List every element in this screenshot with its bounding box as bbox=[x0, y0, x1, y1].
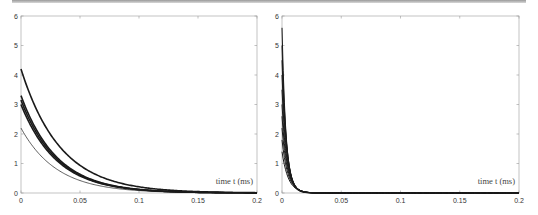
axes-box bbox=[21, 16, 257, 193]
y-tick-label: 3 bbox=[275, 101, 279, 108]
x-tick-label: 0.2 bbox=[514, 197, 524, 204]
y-tick-label: 4 bbox=[275, 72, 279, 79]
x-tick-label: 0.1 bbox=[134, 197, 144, 204]
x-tick-label: 0.05 bbox=[334, 197, 348, 204]
y-tick-label: 5 bbox=[275, 42, 279, 49]
x-tick-label: 0.05 bbox=[73, 197, 87, 204]
x-axis-label: time t (ms) bbox=[478, 176, 515, 186]
x-tick-label: 0 bbox=[280, 197, 284, 204]
y-tick-label: 0 bbox=[275, 190, 279, 197]
y-tick-label: 6 bbox=[275, 13, 279, 20]
y-tick-label: 2 bbox=[14, 131, 18, 138]
x-tick-label: 0.1 bbox=[396, 197, 406, 204]
y-tick-label: 1 bbox=[14, 160, 18, 167]
chart-right: 00.050.10.150.20123456time t (ms) bbox=[261, 0, 538, 215]
axes-box bbox=[282, 16, 519, 193]
x-tick-label: 0.15 bbox=[191, 197, 205, 204]
y-tick-label: 1 bbox=[275, 160, 279, 167]
x-tick-label: 0.15 bbox=[453, 197, 467, 204]
y-tick-label: 5 bbox=[14, 42, 18, 49]
x-axis-label: time t (ms) bbox=[216, 176, 253, 186]
y-tick-label: 0 bbox=[14, 190, 18, 197]
y-tick-label: 2 bbox=[275, 131, 279, 138]
y-tick-label: 3 bbox=[14, 101, 18, 108]
y-tick-label: 6 bbox=[14, 13, 18, 20]
chart-left: 00.050.10.150.20123456time t (ms) bbox=[0, 0, 269, 215]
y-tick-label: 4 bbox=[14, 72, 18, 79]
x-tick-label: 0 bbox=[19, 197, 23, 204]
